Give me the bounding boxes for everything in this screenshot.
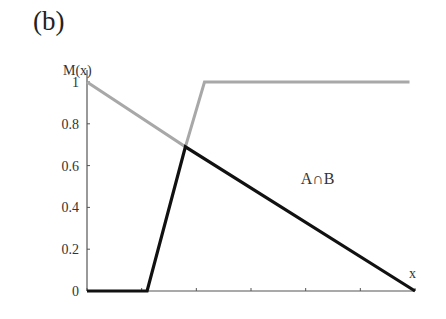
y-tick-label: 0.4 <box>62 200 80 215</box>
y-tick-label: 0.8 <box>62 117 80 132</box>
y-axis-label: M(x) <box>63 63 92 79</box>
y-tick-label: 0.2 <box>62 242 80 257</box>
y-tick-label: 0.6 <box>62 159 80 174</box>
x-axis-label: x <box>409 266 416 281</box>
axes <box>87 70 415 291</box>
series-layer <box>87 82 415 291</box>
gray-envelope-line <box>87 82 410 147</box>
annotation-label: A∩B <box>301 170 335 187</box>
intersection-line <box>87 147 415 291</box>
membership-chart: 00.20.40.60.81M(x)xA∩B <box>0 0 446 319</box>
y-tick-label: 0 <box>72 284 79 299</box>
